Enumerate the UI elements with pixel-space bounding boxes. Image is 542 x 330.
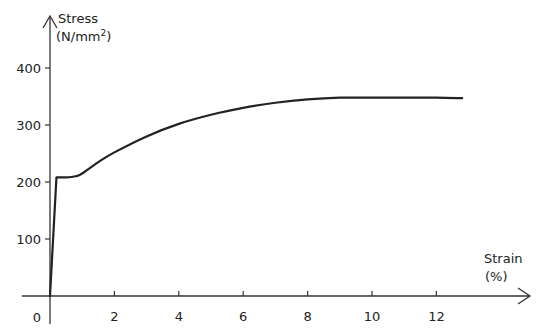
- y-tick-label: 200: [16, 175, 41, 190]
- y-unit-suffix: ): [106, 29, 111, 44]
- origin-label: 0: [33, 310, 41, 325]
- x-tick-label: 4: [175, 309, 183, 324]
- x-tick-label: 8: [303, 309, 311, 324]
- x-tick-label: 6: [239, 309, 247, 324]
- x-axis-title: Strain: [484, 251, 523, 266]
- y-tick-label: 400: [16, 61, 41, 76]
- y-tick-label: 300: [16, 118, 41, 133]
- x-axis-unit: (%): [485, 269, 508, 284]
- y-unit-prefix: (N/mm: [56, 29, 101, 44]
- y-tick-label: 100: [16, 232, 41, 247]
- x-tick-label: 2: [110, 309, 118, 324]
- y-axis-title: Stress: [58, 11, 98, 26]
- stress-strain-chart: 24681012 100200300400 0 Stress (N/mm2) S…: [0, 0, 542, 330]
- y-ticks: 100200300400: [16, 61, 50, 247]
- x-tick-label: 12: [428, 309, 445, 324]
- axes: [22, 16, 530, 324]
- stress-strain-curve: [50, 98, 462, 296]
- x-tick-label: 10: [364, 309, 381, 324]
- y-axis-unit: (N/mm2): [56, 28, 111, 44]
